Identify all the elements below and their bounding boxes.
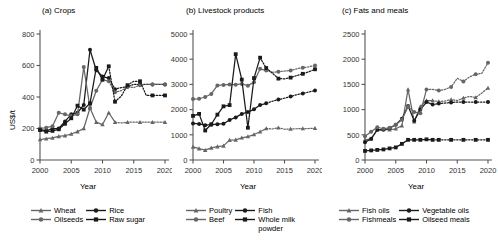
svg-text:2020: 2020 xyxy=(480,166,497,175)
panel-b-plot: 0100020003000400050002000200520102015202… xyxy=(160,0,322,178)
legend-marker-triangle-icon xyxy=(30,205,54,215)
svg-text:0: 0 xyxy=(355,156,359,165)
legend-label: Fish xyxy=(258,205,297,215)
legend-label: Fish oils xyxy=(362,205,398,215)
panel-b-xlabel: Year xyxy=(240,182,256,191)
panel-crops: (a) Crops US$/t Year 0200400600800200020… xyxy=(0,0,172,196)
legend-marker-circle-icon xyxy=(185,215,209,233)
svg-text:200: 200 xyxy=(22,124,35,133)
panel-c-xlabel: Year xyxy=(408,182,424,191)
legend-label-text: Fish xyxy=(258,206,272,215)
legend-label-text: Raw sugar xyxy=(109,215,145,224)
legend-marker-circle-icon xyxy=(85,205,109,215)
svg-text:4000: 4000 xyxy=(171,55,188,64)
svg-text:5000: 5000 xyxy=(171,30,188,39)
legend-label-text: Wheat xyxy=(54,206,76,215)
legend-label-text: Vegetable oils xyxy=(422,206,469,215)
panel-livestock: (b) Livestock products Year 010002000300… xyxy=(160,0,322,196)
svg-text:2010: 2010 xyxy=(246,166,263,175)
legend-label-text: Oilseeds xyxy=(54,215,83,224)
svg-text:2000: 2000 xyxy=(185,166,202,175)
legend-table: WheatRiceOilseedsRaw sugar xyxy=(30,205,147,224)
svg-text:2000: 2000 xyxy=(32,166,49,175)
legend-table: Fish oilsVegetable oilsFishmealsOilseed … xyxy=(338,205,472,224)
legend-label: Poultry xyxy=(209,205,234,215)
legend-label: Fishmeals xyxy=(362,215,398,225)
legend-row: WheatRice xyxy=(30,205,147,215)
svg-text:1500: 1500 xyxy=(343,80,360,89)
legend-table: PoultryFishBeefWhole milk powder xyxy=(185,205,297,233)
svg-text:2015: 2015 xyxy=(449,166,466,175)
panel-a-xlabel: Year xyxy=(80,182,96,191)
legend-row: BeefWhole milk powder xyxy=(185,215,297,233)
legend-row: PoultryFish xyxy=(185,205,297,215)
svg-text:2000: 2000 xyxy=(357,166,374,175)
svg-text:2000: 2000 xyxy=(171,105,188,114)
legend-fats: Fish oilsVegetable oilsFishmealsOilseed … xyxy=(338,205,472,224)
svg-text:500: 500 xyxy=(347,131,360,140)
svg-text:0: 0 xyxy=(183,156,187,165)
svg-text:2010: 2010 xyxy=(418,166,435,175)
legend-marker-circle-icon xyxy=(30,215,54,225)
svg-text:2015: 2015 xyxy=(276,166,293,175)
legend-marker-circle-icon xyxy=(234,205,258,215)
legend-label-text: Rice xyxy=(109,206,124,215)
legend-label-text: Whole milk powder xyxy=(258,215,295,233)
legend-marker-circle-icon xyxy=(338,215,362,225)
legend-label: Wheat xyxy=(54,205,85,215)
svg-text:400: 400 xyxy=(22,93,35,102)
legend-marker-circle-icon xyxy=(398,205,422,215)
legend-label-text: Oilseed meals xyxy=(422,215,470,224)
legend-marker-square-icon xyxy=(85,215,109,225)
legend-label: Rice xyxy=(109,205,147,215)
legend-crops: WheatRiceOilseedsRaw sugar xyxy=(30,205,147,224)
legend-label-text: Fish oils xyxy=(362,206,390,215)
svg-text:3000: 3000 xyxy=(171,80,188,89)
legend-label: Oilseed meals xyxy=(422,215,472,225)
svg-text:600: 600 xyxy=(22,61,35,70)
figure-root: (a) Crops US$/t Year 0200400600800200020… xyxy=(0,0,498,241)
panel-a-plot: 020040060080020002005201020152020 xyxy=(0,0,172,178)
legend-marker-triangle-icon xyxy=(338,205,362,215)
legend-row: OilseedsRaw sugar xyxy=(30,215,147,225)
legend-marker-square-icon xyxy=(398,215,422,225)
legend-label-text: Fishmeals xyxy=(362,215,396,224)
legend-marker-triangle-icon xyxy=(185,205,209,215)
legend-row: FishmealsOilseed meals xyxy=(338,215,472,225)
svg-text:0: 0 xyxy=(30,156,34,165)
panel-c-plot: 0500100015002000250020002005201020152020 xyxy=(320,0,498,178)
svg-text:1000: 1000 xyxy=(171,131,188,140)
legend-label: Beef xyxy=(209,215,234,233)
legend-marker-square-icon xyxy=(234,215,258,233)
svg-text:1000: 1000 xyxy=(343,105,360,114)
svg-text:2005: 2005 xyxy=(215,166,232,175)
legend-row: Fish oilsVegetable oils xyxy=(338,205,472,215)
legend-label-text: Poultry xyxy=(209,206,232,215)
panel-fats: (c) Fats and meals Year 0500100015002000… xyxy=(320,0,498,196)
legend-livestock: PoultryFishBeefWhole milk powder xyxy=(185,205,297,233)
svg-text:2500: 2500 xyxy=(343,30,360,39)
svg-text:2005: 2005 xyxy=(63,166,80,175)
svg-text:800: 800 xyxy=(22,30,35,39)
legend-label: Whole milk powder xyxy=(258,215,297,233)
svg-text:2010: 2010 xyxy=(94,166,111,175)
legend-label: Vegetable oils xyxy=(422,205,472,215)
legend-label: Raw sugar xyxy=(109,215,147,225)
svg-text:2005: 2005 xyxy=(387,166,404,175)
svg-text:2000: 2000 xyxy=(343,55,360,64)
legend-label-text: Beef xyxy=(209,215,224,224)
svg-text:2015: 2015 xyxy=(125,166,142,175)
legend-label: Oilseeds xyxy=(54,215,85,225)
